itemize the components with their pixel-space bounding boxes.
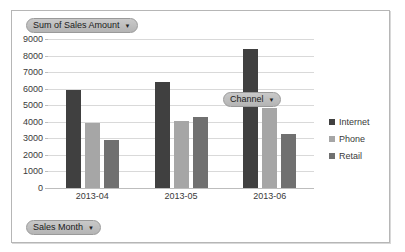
legend-item-label: Retail xyxy=(339,151,362,161)
y-axis-tick-label: 9000 xyxy=(23,34,43,44)
row-field-label: Sales Month xyxy=(33,223,83,232)
legend-item: Internet xyxy=(329,113,370,130)
y-axis-tick-label: 5000 xyxy=(23,100,43,110)
legend-field-label: Channel xyxy=(230,95,264,104)
gridline xyxy=(48,188,314,189)
pivot-chart: Sum of Sales Amount ▼ 900080007000600050… xyxy=(11,10,390,243)
chevron-down-icon: ▼ xyxy=(269,97,275,103)
y-axis-tick-label: 1000 xyxy=(23,166,43,176)
legend-swatch-icon xyxy=(329,153,335,159)
legend-swatch-icon xyxy=(329,119,335,125)
y-axis-tick-label: 3000 xyxy=(23,133,43,143)
legend-field-button[interactable]: Channel ▼ xyxy=(223,92,281,107)
plot-area: 9000800070006000500040003000200010000 xyxy=(48,39,314,188)
value-field-label: Sum of Sales Amount xyxy=(33,21,120,30)
legend-item-label: Phone xyxy=(339,134,365,144)
x-axis-tick-label: 2013-06 xyxy=(225,191,314,201)
legend-swatch-icon xyxy=(329,136,335,142)
x-axis-labels: 2013-042013-052013-06 xyxy=(48,191,314,201)
bar-group xyxy=(48,39,137,188)
bar-internet-2013-05[interactable] xyxy=(155,82,170,188)
bar-phone-2013-06[interactable] xyxy=(262,108,277,188)
y-axis-tick-label: 2000 xyxy=(23,150,43,160)
y-axis-tick xyxy=(45,188,48,189)
bar-retail-2013-04[interactable] xyxy=(104,140,119,188)
chevron-down-icon: ▼ xyxy=(125,23,131,29)
bar-internet-2013-04[interactable] xyxy=(66,90,81,189)
y-axis-tick-label: 8000 xyxy=(23,51,43,61)
bar-retail-2013-05[interactable] xyxy=(193,117,208,188)
y-axis-tick-label: 4000 xyxy=(23,117,43,127)
y-axis-tick-label: 6000 xyxy=(23,84,43,94)
chart-legend: InternetPhoneRetail xyxy=(329,113,370,164)
legend-item: Retail xyxy=(329,147,370,164)
bar-phone-2013-05[interactable] xyxy=(174,121,189,188)
bar-phone-2013-04[interactable] xyxy=(85,123,100,188)
y-axis-tick-label: 7000 xyxy=(23,67,43,77)
x-axis-tick-label: 2013-05 xyxy=(137,191,226,201)
bar-internet-2013-06[interactable] xyxy=(243,49,258,188)
row-field-button[interactable]: Sales Month ▼ xyxy=(26,220,101,235)
bar-group xyxy=(225,39,314,188)
legend-item: Phone xyxy=(329,130,370,147)
legend-item-label: Internet xyxy=(339,117,370,127)
bar-retail-2013-06[interactable] xyxy=(281,134,296,188)
bar-group xyxy=(137,39,226,188)
x-axis-tick-label: 2013-04 xyxy=(48,191,137,201)
bar-series-container xyxy=(48,39,314,188)
y-axis-tick-label: 0 xyxy=(38,183,43,193)
value-field-button[interactable]: Sum of Sales Amount ▼ xyxy=(26,18,138,33)
chevron-down-icon: ▼ xyxy=(88,225,94,231)
